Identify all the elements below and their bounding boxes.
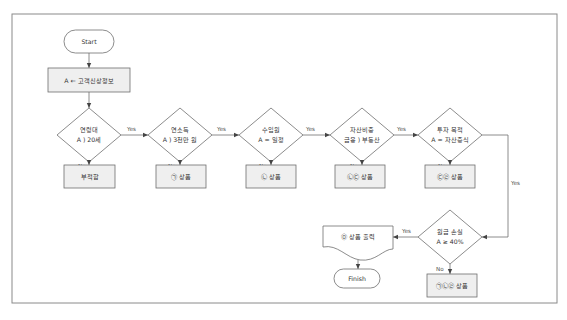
result-box-product-cd: ㉢㉣ 상품 [425, 165, 475, 188]
d5-yes-label: Yes [510, 180, 520, 186]
result-product-cd-label: ㉢㉣ 상품 [437, 173, 463, 181]
input-process-box: A ← 고객신상정보 [48, 68, 130, 92]
decision-loss-line1: 원금 손실 [437, 228, 463, 235]
output-label: ㉤ 상품 출력 [341, 233, 375, 241]
d3-yes-label: Yes [305, 126, 315, 132]
result-box-product-bc: ㉡㉢ 상품 [335, 165, 385, 188]
flowchart-canvas: Start A ← 고객신상정보 연령대 A ) 20세 Yes No 부적합 … [0, 0, 567, 320]
start-terminator: Start [64, 30, 114, 53]
decision-asset-line1: 자산비중 [350, 126, 374, 134]
d6-no-label: No [436, 266, 444, 272]
decision-age-line2: A ) 20세 [77, 136, 101, 144]
decision-goal-line2: A = 자산증식 [431, 136, 468, 144]
d2-yes-label: Yes [216, 126, 226, 132]
start-label: Start [81, 38, 97, 45]
d6-yes-label: Yes [401, 228, 411, 234]
result-box-product-abd: ㉠㉡㉣ 상품 [427, 274, 477, 297]
decision-loss-line2: A ≥ 40% [436, 238, 463, 245]
decision-income-line2: A ) 3천만 원 [163, 136, 197, 143]
result-product-b-label: ㉡ 상품 [261, 173, 281, 181]
result-unsuitable-label: 부적합 [81, 173, 99, 181]
result-box-product-a: ㉠ 상품 [156, 165, 206, 188]
decision-income-line1: 연소득 [171, 126, 189, 134]
d4-yes-label: Yes [396, 126, 406, 132]
finish-terminator: Finish [334, 269, 380, 288]
decision-source-line2: A = 일정 [258, 136, 283, 143]
result-box-unsuitable: 부적합 [64, 165, 115, 188]
decision-asset-line2: 금융 ) 부동산 [344, 136, 380, 144]
input-label: A ← 고객신상정보 [64, 77, 113, 85]
d1-yes-label: Yes [126, 126, 136, 132]
result-product-bc-label: ㉡㉢ 상품 [347, 173, 373, 181]
finish-label: Finish [348, 275, 366, 282]
result-box-product-b: ㉡ 상품 [246, 165, 296, 188]
result-product-a-label: ㉠ 상품 [171, 173, 191, 181]
decision-age-line1: 연령대 [80, 126, 98, 134]
decision-goal-line1: 투자 목적 [437, 126, 463, 134]
result-product-abd-label: ㉠㉡㉣ 상품 [436, 282, 468, 290]
decision-source-line1: 수입원 [262, 126, 280, 134]
